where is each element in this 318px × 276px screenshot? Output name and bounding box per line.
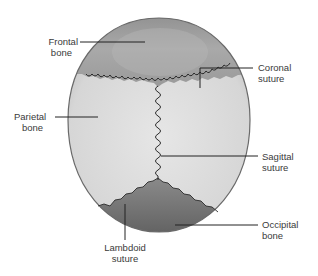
occipital-label-line2: bone — [262, 230, 318, 241]
sagittal-label-line2: suture — [262, 162, 318, 173]
occipital-label-line1: Occipital — [262, 219, 318, 230]
lambdoid-label-line2: suture — [98, 253, 152, 264]
coronal-suture-label: Coronal suture — [258, 62, 316, 84]
coronal-label-line2: suture — [258, 73, 316, 84]
frontal-label-line2: bone — [30, 47, 78, 58]
parietal-label-line1: Parietal — [14, 111, 58, 122]
coronal-label-line1: Coronal — [258, 62, 316, 73]
sagittal-label-line1: Sagittal — [262, 151, 318, 162]
parietal-bone-label: Parietal bone — [14, 111, 58, 133]
lambdoid-label-line1: Lambdoid — [98, 242, 152, 253]
lambdoid-suture-label: Lambdoid suture — [98, 242, 152, 264]
parietal-label-line2: bone — [14, 122, 58, 133]
sagittal-suture-label: Sagittal suture — [262, 151, 318, 173]
occipital-bone-label: Occipital bone — [262, 219, 318, 241]
frontal-bone-label: Frontal bone — [30, 36, 78, 58]
frontal-label-line1: Frontal — [30, 36, 78, 47]
